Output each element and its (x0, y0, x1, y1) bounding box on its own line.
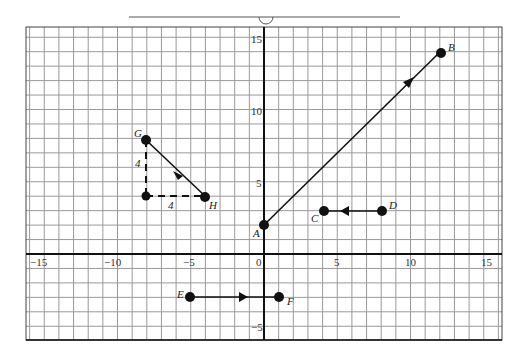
x-tick-label: −15 (30, 256, 48, 268)
point-B (436, 48, 446, 58)
point-C (319, 206, 329, 216)
point-label-H: H (208, 199, 218, 211)
y-tick-label: −5 (251, 321, 263, 333)
y-tick-label: 5 (256, 177, 262, 189)
horizontal-component-label: 4 (168, 199, 174, 211)
x-tick-label: 0 (256, 256, 262, 268)
point-label-F: F (286, 295, 294, 307)
x-tick-label: −5 (183, 256, 195, 268)
x-tick-label: −10 (104, 256, 122, 268)
point-G (141, 135, 151, 145)
point-label-G: G (134, 127, 142, 139)
coordinate-grid-figure: −15 −10 −5 0 5 10 15 15 10 5 −5 4 4 (0, 0, 527, 357)
y-tick-label: 15 (251, 33, 263, 45)
point-E (185, 292, 195, 302)
x-tick-label: 10 (405, 256, 417, 268)
point-label-A: A (252, 227, 260, 239)
x-tick-label: 5 (334, 256, 340, 268)
point-label-B: B (448, 41, 455, 53)
point-label-E: E (176, 288, 184, 300)
vertical-component-label: 4 (135, 157, 141, 169)
top-edge-line (129, 17, 400, 24)
x-tick-labels: −15 −10 −5 0 5 10 15 (30, 256, 493, 268)
x-tick-label: 15 (481, 256, 493, 268)
y-tick-labels: 15 10 5 −5 (251, 33, 263, 333)
y-tick-label: 10 (251, 105, 263, 117)
point-D (377, 206, 387, 216)
point-label-C: C (311, 212, 319, 224)
vector-GH (146, 140, 205, 196)
component-lines: 4 4 (135, 140, 205, 211)
point-label-D: D (388, 199, 397, 211)
point-F (274, 292, 284, 302)
point-A (259, 220, 269, 230)
